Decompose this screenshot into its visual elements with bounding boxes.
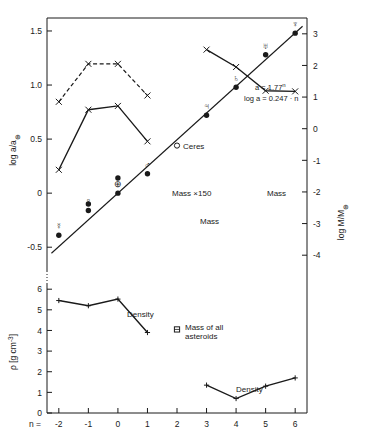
planet-symbol-venus: ♀ xyxy=(85,196,92,206)
y-left-tick-label: -0.5 xyxy=(27,242,42,252)
y-bottom-tick-label: 0 xyxy=(37,408,42,418)
equation-line-2: log a = 0.247 · n xyxy=(244,94,298,103)
mass-x150-label: Mass ×150 xyxy=(172,189,212,198)
y-bottom-tick-label: 4 xyxy=(37,326,42,336)
y-left-tick-label: 0 xyxy=(37,188,42,198)
planet-symbol-jupiter: ♃ xyxy=(203,101,210,111)
y-bottom-tick-label: 5 xyxy=(37,305,42,315)
y-right-tick-label: -2 xyxy=(313,187,321,197)
y-left-upper-axis-label: log a/a⊕ xyxy=(8,134,21,166)
figure-root: -2-10123456n =1.51.00.50-0.5log a/a⊕3210… xyxy=(0,0,366,441)
x-tick-label: 2 xyxy=(175,419,180,429)
mass-inner-curve xyxy=(59,106,148,170)
log-a-point-4 xyxy=(204,113,209,118)
density-outer-label: Density xyxy=(236,385,263,394)
y-bottom-tick-label: 6 xyxy=(37,284,42,294)
y-bottom-tick-label: 1 xyxy=(37,388,42,398)
density-outer-marker-2 xyxy=(263,384,268,389)
y-right-tick-label: -3 xyxy=(313,219,321,229)
x-tick-label: 3 xyxy=(204,419,209,429)
log-a-point-5 xyxy=(233,84,238,89)
mass-x150-marker-3 xyxy=(144,92,150,98)
x-tick-label: 4 xyxy=(234,419,239,429)
density-outer-marker-1 xyxy=(233,396,238,401)
mass-outer-marker-1 xyxy=(233,64,239,70)
y-bottom-tick-label: 2 xyxy=(37,367,42,377)
mass-outer-marker-0 xyxy=(204,47,210,53)
log-a-point-2 xyxy=(115,190,120,195)
y-bottom-axis-label: ρ [g cm-3] xyxy=(7,334,19,370)
y-right-tick-label: 2 xyxy=(313,61,318,71)
planet-symbol-mars: ♂ xyxy=(144,160,151,170)
density-inner-label: Density xyxy=(127,310,154,319)
planet-symbol-earth: ⊕ xyxy=(114,179,122,189)
y-right-tick-label: 1 xyxy=(313,92,318,102)
planet-symbol-mercury: ☿ xyxy=(55,221,62,231)
y-right-tick-label: -1 xyxy=(313,156,321,166)
log-a-point-6 xyxy=(263,52,268,57)
density-inner-marker-1 xyxy=(86,303,91,308)
log-a-point-3 xyxy=(145,171,150,176)
planet-symbol-uranus: ♅ xyxy=(262,41,269,51)
y-right-tick-label: 3 xyxy=(313,29,318,39)
mass-inner-marker-3 xyxy=(144,138,150,144)
density-outer-marker-3 xyxy=(293,375,298,380)
log-a-point-1 xyxy=(86,208,91,213)
planet-symbol-neptune: ♆ xyxy=(292,19,299,29)
x-tick-label: 0 xyxy=(116,419,121,429)
science-chart: -2-10123456n =1.51.00.50-0.5log a/a⊕3210… xyxy=(0,0,366,441)
mass-inner-label: Mass xyxy=(200,217,219,226)
equation-line-1: a = 1.77n xyxy=(255,82,286,92)
ceres-marker xyxy=(174,143,179,148)
x-tick-label: 6 xyxy=(293,419,298,429)
y-left-tick-label: 1.5 xyxy=(30,26,42,36)
y-bottom-tick-label: 3 xyxy=(37,346,42,356)
y-right-axis-label: log M/M⊕ xyxy=(336,204,349,240)
density-inner-marker-0 xyxy=(56,298,61,303)
x-axis-label: n = xyxy=(29,419,41,429)
log-a-point-7 xyxy=(292,30,297,35)
mass-x150-curve xyxy=(59,64,148,102)
x-tick-label: -2 xyxy=(55,419,63,429)
mass-inner-marker-0 xyxy=(56,167,62,173)
y-left-tick-label: 1.0 xyxy=(30,80,42,90)
log-a-point-0 xyxy=(56,233,61,238)
asteroids-label-2: asteroids xyxy=(185,332,217,341)
density-outer-marker-0 xyxy=(204,383,209,388)
x-tick-label: -1 xyxy=(85,419,93,429)
mass-x150-marker-0 xyxy=(56,99,62,105)
x-tick-label: 5 xyxy=(263,419,268,429)
y-right-tick-label: 0 xyxy=(313,124,318,134)
mass-outer-label: Mass xyxy=(267,189,286,198)
svg-text:log a/a⊕: log a/a⊕ xyxy=(8,134,21,166)
planet-symbol-saturn: ♄ xyxy=(233,73,240,83)
regression-line xyxy=(51,26,302,253)
asteroids-label-1: Mass of all xyxy=(185,323,223,332)
y-right-tick-label: -4 xyxy=(313,250,321,260)
y-left-tick-label: 0.5 xyxy=(30,134,42,144)
ceres-label: Ceres xyxy=(183,142,204,151)
x-tick-label: 1 xyxy=(145,419,150,429)
